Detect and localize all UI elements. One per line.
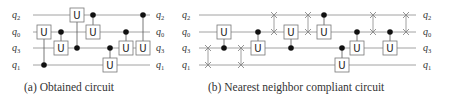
- input-label-q2: q2: [182, 9, 190, 21]
- input-label-q2: q2: [12, 9, 20, 21]
- gate-u-label: U: [89, 27, 96, 38]
- gate-u-label: U: [353, 43, 360, 54]
- gate-u-label: U: [386, 43, 393, 54]
- output-label-q0: q0: [156, 26, 164, 38]
- input-label-q1: q1: [182, 59, 190, 71]
- gate-u-label: U: [220, 27, 227, 38]
- control-dot-icon: [123, 29, 129, 35]
- control-dot-icon: [140, 12, 146, 18]
- output-label-q0: q0: [423, 26, 431, 38]
- input-label-q3: q3: [182, 42, 190, 54]
- caption-b: (b) Nearest neighbor compliant circuit: [208, 81, 384, 93]
- gate-u-label: U: [254, 43, 261, 54]
- output-label-q3: q3: [423, 42, 431, 54]
- control-dot-icon: [255, 29, 261, 35]
- control-dot-icon: [387, 29, 393, 35]
- control-dot-icon: [74, 45, 80, 51]
- control-dot-icon: [321, 12, 327, 18]
- output-label-q3: q3: [156, 42, 164, 54]
- gate-u-label: U: [338, 60, 345, 71]
- output-label-q2: q2: [423, 9, 431, 21]
- circuit-a: q2q2q0q0q3q3q1q1UUUUUUU: [12, 8, 164, 72]
- gate-u-label: U: [106, 60, 113, 71]
- gate-u-label: U: [40, 27, 47, 38]
- control-dot-icon: [288, 45, 294, 51]
- input-label-q0: q0: [182, 26, 190, 38]
- control-dot-icon: [107, 45, 113, 51]
- gate-u-label: U: [122, 43, 129, 54]
- input-label-q1: q1: [12, 59, 20, 71]
- control-dot-icon: [41, 62, 47, 68]
- control-dot-icon: [90, 12, 96, 18]
- control-dot-icon: [58, 29, 64, 35]
- gate-u-label: U: [320, 27, 327, 38]
- gate-u-label: U: [57, 43, 64, 54]
- caption-a: (a) Obtained circuit: [24, 81, 114, 93]
- gate-u-label: U: [287, 27, 294, 38]
- input-label-q3: q3: [12, 42, 20, 54]
- gate-u-label: U: [73, 10, 80, 21]
- output-label-q1: q1: [423, 59, 431, 71]
- circuit-b: q2q2q0q0q3q3q1q1UUUUUUU: [182, 9, 431, 72]
- control-dot-icon: [354, 29, 360, 35]
- output-label-q2: q2: [156, 9, 164, 21]
- output-label-q1: q1: [156, 59, 164, 71]
- control-dot-icon: [221, 45, 227, 51]
- figure: q2q2q0q0q3q3q1q1UUUUUUUq2q2q0q0q3q3q1q1U…: [0, 0, 449, 100]
- input-label-q0: q0: [12, 26, 20, 38]
- gate-u-label: U: [139, 43, 146, 54]
- control-dot-icon: [339, 45, 345, 51]
